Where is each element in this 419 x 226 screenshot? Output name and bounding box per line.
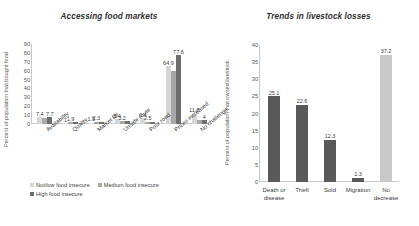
left-chart-plot-area: 0102030405060708090 7.47.711.91.52.35.43… xyxy=(32,44,212,124)
bar-value-label: 12.3 xyxy=(325,133,336,139)
bar[interactable]: 37.2 xyxy=(380,55,392,182)
legend-label: Medium food insecure xyxy=(104,182,159,188)
right-chart-y-axis-label: Percent of population that owned livesto… xyxy=(224,45,230,180)
left-chart-y-axis-label: Percent of population that bought food xyxy=(3,35,9,165)
bar-value-label: 1.3 xyxy=(354,171,362,177)
bar-group: 12.3 xyxy=(316,45,344,182)
bar-value-label: 25.1 xyxy=(269,90,280,96)
category-label: No challenge xyxy=(186,126,212,127)
category-label: Prices increased xyxy=(161,126,187,127)
bar[interactable]: 12.3 xyxy=(324,140,336,182)
bar-group: 37.2 xyxy=(372,45,400,182)
chart-panel-livestock-losses: Trends in livestock losses Percent of po… xyxy=(218,0,419,226)
bar-group: 7.47.7 xyxy=(32,44,58,124)
bar[interactable]: 25.1 xyxy=(268,96,280,182)
right-chart-title: Trends in livestock losses xyxy=(218,12,419,21)
category-label: Availability xyxy=(32,126,58,127)
y-tick-label: 40 xyxy=(252,42,260,48)
category-label: Death or disease xyxy=(260,186,288,202)
chart-panel-food-markets: Accessing food markets Percent of popula… xyxy=(0,0,218,226)
bar[interactable]: 1.3 xyxy=(352,178,364,182)
legend-swatch-icon xyxy=(30,183,34,187)
bar-value-label: 1.9 xyxy=(67,116,75,122)
category-label: Market far xyxy=(83,126,109,127)
y-tick-label: 15 xyxy=(252,128,260,134)
bar-value-label: 64.9 xyxy=(163,60,174,66)
left-chart-legend: Not/low food insecure Medium food insecu… xyxy=(30,182,159,200)
y-tick-label: 20 xyxy=(24,103,32,109)
category-label: Theft xyxy=(288,186,316,202)
bar-value-label: 2.3 xyxy=(92,115,100,121)
bar-value-label: 7.4 xyxy=(36,111,44,117)
bar-group: 1.3 xyxy=(344,45,372,182)
right-chart-category-labels: Death or diseaseTheftSoldMigrationNo dec… xyxy=(260,186,400,202)
bar-value-label: 4 xyxy=(203,114,206,120)
y-tick-label: 20 xyxy=(252,111,260,117)
legend-item-high-food-insecure: High food insecure xyxy=(30,191,83,197)
bar-value-label: 77.6 xyxy=(173,49,184,55)
legend-item-not-low-food-insecure: Not/low food insecure xyxy=(30,182,90,188)
y-tick-label: 10 xyxy=(24,112,32,118)
category-label: Migration xyxy=(344,186,372,202)
category-label: No decrease xyxy=(372,186,400,202)
category-label: Sold xyxy=(316,186,344,202)
right-chart-plot-area: 0510152025303540 25.122.612.31.337.2 xyxy=(260,45,400,182)
y-tick-label: 30 xyxy=(252,76,260,82)
y-tick-label: 35 xyxy=(252,59,260,65)
y-tick-label: 70 xyxy=(24,59,32,65)
legend-label: Not/low food insecure xyxy=(36,182,90,188)
category-label: Poor road xyxy=(135,126,161,127)
right-chart-bars: 25.122.612.31.337.2 xyxy=(260,45,400,182)
bar-group: 1.52.3 xyxy=(83,44,109,124)
left-chart-category-labels: AvailabilityQualityMarket farUnsafe rout… xyxy=(32,126,212,127)
bar-value-label: 37.2 xyxy=(381,48,392,54)
left-chart-title: Accessing food markets xyxy=(0,12,218,21)
y-tick-label: 80 xyxy=(24,50,32,56)
y-tick-label: 25 xyxy=(252,93,260,99)
bar[interactable]: 77.6 xyxy=(176,55,181,124)
y-tick-label: 30 xyxy=(24,94,32,100)
y-tick-label: 40 xyxy=(24,85,32,91)
figure-container: Accessing food markets Percent of popula… xyxy=(0,0,419,226)
bar[interactable]: 22.6 xyxy=(296,105,308,182)
bar-group: 64.977.6 xyxy=(161,44,187,124)
y-tick-label: 60 xyxy=(24,68,32,74)
legend-swatch-icon xyxy=(30,192,34,196)
bar-group: 11.9 xyxy=(58,44,84,124)
category-label: Quality xyxy=(58,126,84,127)
y-tick-label: 10 xyxy=(252,145,260,151)
bar-value-label: 7.7 xyxy=(46,111,54,117)
category-label: Unsafe route xyxy=(109,126,135,127)
legend-item-medium-food-insecure: Medium food insecure xyxy=(98,182,159,188)
bar-group: 22.6 xyxy=(288,45,316,182)
y-tick-label: 90 xyxy=(24,41,32,47)
y-tick-label: 50 xyxy=(24,77,32,83)
bar-value-label: 22.6 xyxy=(297,98,308,104)
legend-swatch-icon xyxy=(98,183,102,187)
legend-label: High food insecure xyxy=(36,191,83,197)
bar-group: 25.1 xyxy=(260,45,288,182)
left-chart-bars: 7.47.711.91.52.35.43.26.42.564.977.611.8… xyxy=(32,44,212,124)
